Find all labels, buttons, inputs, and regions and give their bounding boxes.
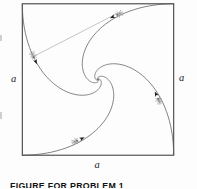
pursuit-curves-layer (22, 4, 173, 155)
bugs-layer (29, 10, 164, 146)
sight-line (35, 14, 117, 56)
side-label-bottom: a (94, 159, 99, 170)
bottom-bug-icon (71, 137, 80, 146)
pursuit-curve (22, 4, 101, 95)
side-label-left: a (11, 73, 16, 84)
pursuit-curve (22, 76, 113, 155)
pursuit-curves-diagram: a a a (0, 0, 197, 178)
side-label-right: a (179, 72, 184, 83)
pursuit-curve (95, 64, 174, 155)
direction-arrow-icon (33, 59, 39, 65)
figure-caption: FIGURE FOR PROBLEM 1 (10, 181, 124, 189)
left-bug-icon (29, 51, 38, 60)
pursuit-curve (82, 4, 173, 83)
